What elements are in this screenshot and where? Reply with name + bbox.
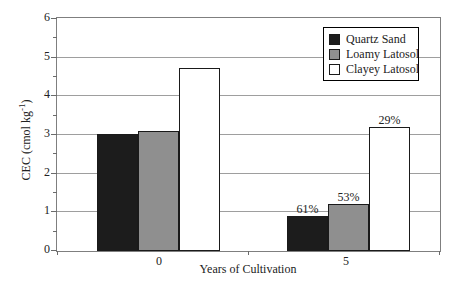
bar-label-loamy-latosol-year5: 53% — [338, 191, 360, 203]
y-tick-label-2: 2 — [22, 164, 50, 180]
y-minor-tick-0p5 — [53, 231, 57, 232]
bar-loamy-latosol-year5: 53% — [328, 204, 369, 251]
x-tick-label-0: 0 — [156, 254, 162, 269]
y-tick-label-6: 6 — [22, 9, 50, 25]
bar-quartz-sand-year0 — [97, 134, 138, 251]
legend-swatch-clayey-latosol — [329, 64, 340, 75]
legend-item-loamy-latosol: Loamy Latosol — [329, 47, 415, 62]
legend-swatch-quartz-sand — [329, 34, 340, 45]
y-major-tick-3 — [51, 134, 57, 135]
y-tick-label-3: 3 — [22, 125, 50, 141]
plot-area: 61% 53% 29% Quartz Sand Loamy Latosol Cl… — [56, 17, 441, 252]
y-minor-tick-2p5 — [53, 153, 57, 154]
x-axis-label: Years of Cultivation — [200, 262, 297, 277]
bar-clayey-latosol-year0 — [179, 68, 220, 251]
y-minor-tick-3p5 — [53, 115, 57, 116]
y-minor-tick-4p5 — [53, 76, 57, 77]
y-axis-label-superscript: -1 — [17, 104, 27, 112]
legend-label-quartz-sand: Quartz Sand — [346, 32, 406, 47]
x-boundary-tick-right — [439, 251, 440, 255]
y-tick-label-4: 4 — [22, 86, 50, 102]
y-major-tick-1 — [51, 211, 57, 212]
bar-label-clayey-latosol-year5: 29% — [379, 114, 401, 126]
cec-bar-chart: CEC (cmol kg-1) 6 5 4 3 2 1 0 — [0, 0, 465, 289]
x-boundary-tick-left — [57, 251, 58, 255]
y-major-tick-5 — [51, 57, 57, 58]
y-tick-label-5: 5 — [22, 48, 50, 64]
bar-clayey-latosol-year5: 29% — [369, 127, 410, 251]
y-major-tick-4 — [51, 95, 57, 96]
y-major-tick-2 — [51, 173, 57, 174]
y-minor-tick-1p5 — [53, 192, 57, 193]
legend-item-quartz-sand: Quartz Sand — [329, 32, 415, 47]
bar-quartz-sand-year5: 61% — [287, 216, 328, 251]
bar-label-quartz-sand-year5: 61% — [297, 203, 319, 215]
y-major-tick-6 — [51, 18, 57, 19]
bar-loamy-latosol-year0 — [138, 131, 179, 251]
legend: Quartz Sand Loamy Latosol Clayey Latosol — [323, 27, 419, 81]
legend-label-loamy-latosol: Loamy Latosol — [346, 47, 419, 62]
x-boundary-tick-middle — [248, 251, 249, 255]
y-tick-label-1: 1 — [22, 202, 50, 218]
x-tick-label-5: 5 — [343, 254, 349, 269]
y-minor-tick-5p5 — [53, 37, 57, 38]
legend-item-clayey-latosol: Clayey Latosol — [329, 62, 415, 77]
legend-swatch-loamy-latosol — [329, 49, 340, 60]
legend-label-clayey-latosol: Clayey Latosol — [346, 62, 419, 77]
y-tick-label-0: 0 — [22, 241, 50, 257]
gridline-4 — [57, 95, 440, 96]
